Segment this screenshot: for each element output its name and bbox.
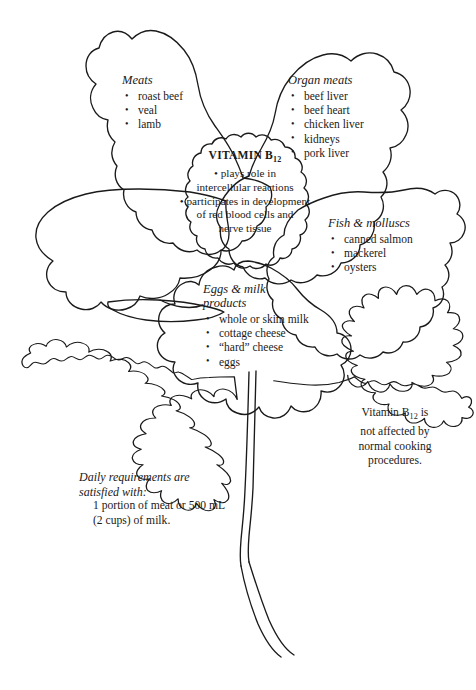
- stem-mid-line: [248, 371, 256, 562]
- cooking-note-line4: procedures.: [334, 454, 456, 469]
- leaf-daily-requirements-text: Daily requirements are satisfied with: 1…: [79, 470, 259, 528]
- diagram-canvas: Meats roast beef veal lamb Organ meats b…: [0, 0, 476, 690]
- petal-meats-list: roast beef veal lamb: [122, 89, 217, 132]
- petal-eggs-milk-text: Eggs & milk products whole or skim milk …: [203, 282, 323, 369]
- petal-organ-meats-heading: Organ meats: [288, 73, 408, 87]
- petal-fish-list: canned salmon mackerel oysters: [328, 232, 453, 275]
- list-item: eggs: [203, 355, 323, 369]
- petal-eggs-milk-heading: Eggs & milk products: [203, 282, 323, 310]
- daily-heading-line1: Daily requirements are: [79, 470, 259, 485]
- center-line: intercellular reactions: [175, 181, 315, 195]
- cooking-note-pre: Vitamin B: [362, 406, 410, 419]
- list-item: mackerel: [328, 246, 453, 260]
- stem-left-line: [240, 372, 249, 566]
- center-title: VITAMIN B12: [175, 149, 315, 166]
- stem-right-line: [241, 566, 281, 657]
- center-line: nerve tissue: [175, 222, 315, 236]
- center-line: • plays role in: [175, 167, 315, 181]
- leaf-cooking-note-text: Vitamin B12 is not affected by normal co…: [334, 406, 456, 469]
- petal-meats-heading: Meats: [122, 73, 217, 87]
- list-item: canned salmon: [328, 232, 453, 246]
- list-item: beef liver: [288, 89, 408, 103]
- list-item: whole or skim milk: [203, 312, 323, 326]
- center-bullet-lines: • plays role in intercellular reactions …: [175, 167, 315, 235]
- center-title-subscript: 12: [273, 155, 281, 164]
- daily-body: 1 portion of meat or 500 mL (2 cups) of …: [79, 499, 259, 528]
- petal-fish-heading: Fish & molluscs: [328, 216, 453, 230]
- cooking-note-line3: normal cooking: [334, 440, 456, 455]
- list-item: chicken liver: [288, 117, 408, 131]
- list-item: veal: [122, 103, 217, 117]
- petal-meats-text: Meats roast beef veal lamb: [122, 73, 217, 132]
- stem-right-line-2: [249, 562, 294, 655]
- daily-body-line2: (2 cups) of milk.: [93, 514, 259, 529]
- list-item: cottage cheese: [203, 326, 323, 340]
- daily-heading: Daily requirements are satisfied with:: [79, 470, 259, 499]
- center-line: • participates in development: [175, 195, 315, 209]
- list-item: kidneys: [288, 132, 408, 146]
- daily-heading-line2: satisfied with:: [79, 485, 259, 500]
- daily-body-line1: 1 portion of meat or 500 mL: [93, 499, 259, 514]
- list-item: beef heart: [288, 103, 408, 117]
- list-item: lamb: [122, 117, 217, 131]
- list-item: “hard” cheese: [203, 340, 323, 354]
- center-line: of red blood cells and: [175, 208, 315, 222]
- petal-fish-text: Fish & molluscs canned salmon mackerel o…: [328, 216, 453, 275]
- center-title-text: VITAMIN B: [209, 149, 273, 162]
- petal-eggs-milk-list: whole or skim milk cottage cheese “hard”…: [203, 312, 323, 369]
- center-vitamin-block: VITAMIN B12 • plays role in intercellula…: [175, 149, 315, 235]
- petal-organ-meats-text: Organ meats beef liver beef heart chicke…: [288, 73, 408, 160]
- cooking-note-subscript: 12: [410, 412, 418, 421]
- list-item: roast beef: [122, 89, 217, 103]
- cooking-note-line1: Vitamin B12 is: [334, 406, 456, 425]
- list-item: oysters: [328, 260, 453, 274]
- cooking-note-line2: not affected by: [334, 425, 456, 440]
